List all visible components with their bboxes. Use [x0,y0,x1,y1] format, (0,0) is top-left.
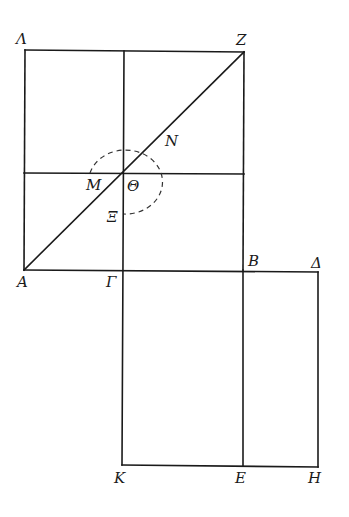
label-xi: Ξ [106,208,118,226]
label-k: K [113,469,126,487]
label-b: B [247,252,259,270]
euclid-diagram: Λ Z N M Θ Ξ A Γ B Δ K E H [0,0,349,517]
segment-a-delta [24,270,318,272]
segment-horizontal-theta [24,173,244,174]
label-theta: Θ [127,177,139,195]
segment-lambda-a [24,50,25,270]
diagonal-a-z [24,52,244,270]
label-m: M [85,176,102,194]
segment-lambda-z [25,50,244,52]
segment-vertical-gamma-k [122,51,124,465]
label-gamma: Γ [105,273,117,291]
label-z: Z [235,31,247,49]
segment-k-h [122,465,318,467]
label-lambda: Λ [14,30,27,48]
label-e: E [234,469,246,487]
label-h: H [307,469,322,487]
label-a: A [15,273,28,291]
label-delta: Δ [310,254,322,272]
segment-z-b [243,52,244,270]
label-n: N [164,132,179,150]
